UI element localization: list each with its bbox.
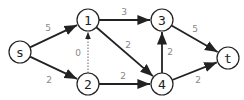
- flow-network-diagram: 520322252 s1234t: [0, 0, 244, 100]
- edge-1-4: [96, 27, 153, 76]
- node-label: t: [224, 51, 232, 66]
- node-1: 1: [77, 9, 99, 31]
- edge-weight-label: 2: [125, 40, 131, 50]
- node-2: 2: [77, 73, 99, 95]
- edge-weight-label: 2: [120, 71, 126, 81]
- edge-weight-label: 2: [46, 75, 52, 85]
- node-label: 4: [158, 77, 166, 92]
- edge-s-1: [30, 25, 77, 47]
- node-label: 2: [84, 77, 92, 92]
- node-s: s: [9, 41, 31, 63]
- edge-weight-label: 0: [75, 48, 81, 58]
- edge-weight-label: 5: [192, 24, 198, 34]
- edge-weight-label: 2: [167, 47, 173, 57]
- edge-s-2: [30, 57, 77, 79]
- edge-weight-label: 3: [121, 7, 127, 17]
- node-label: 1: [84, 13, 92, 28]
- edge-weight-label: 5: [45, 23, 51, 33]
- node-t: t: [217, 47, 239, 69]
- node-label: 3: [158, 13, 166, 28]
- node-4: 4: [151, 73, 173, 95]
- edge-weight-label: 2: [195, 75, 201, 85]
- node-label: s: [16, 45, 24, 60]
- node-3: 3: [151, 9, 173, 31]
